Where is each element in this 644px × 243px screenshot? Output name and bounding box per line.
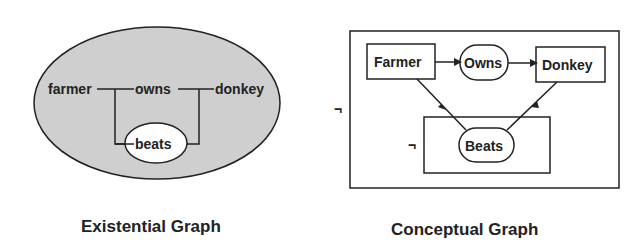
eg-label-donkey: donkey: [215, 81, 264, 97]
eg-label-beats: beats: [135, 136, 172, 152]
relation-beats-label: Beats: [465, 138, 503, 154]
arc-beats-donkey-arrowhead: [531, 101, 539, 108]
conceptual-graph: ¬ Farmer Owns Donkey ¬ Beats Conceptual …: [334, 31, 619, 239]
outer-negation-symbol: ¬: [334, 101, 342, 117]
inner-negation-symbol: ¬: [408, 137, 416, 153]
concept-farmer-label: Farmer: [374, 54, 422, 70]
eg-label-owns: owns: [135, 81, 171, 97]
relation-owns-label: Owns: [464, 55, 502, 71]
cg-caption: Conceptual Graph: [391, 220, 538, 239]
existential-graph: farmer owns donkey beats Existential Gra…: [34, 27, 280, 236]
concept-donkey-label: Donkey: [542, 57, 593, 73]
eg-label-farmer: farmer: [48, 81, 92, 97]
eg-caption: Existential Graph: [81, 217, 221, 236]
diagram-canvas: farmer owns donkey beats Existential Gra…: [0, 0, 644, 243]
